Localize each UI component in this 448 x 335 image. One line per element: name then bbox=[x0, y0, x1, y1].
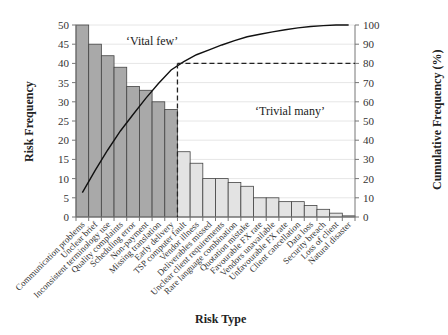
y2-tick-label: 90 bbox=[363, 38, 375, 50]
y2-tick-label: 50 bbox=[363, 115, 375, 127]
bar bbox=[114, 67, 127, 217]
y-tick-label: 40 bbox=[58, 57, 70, 69]
y2-tick-label: 70 bbox=[363, 77, 375, 89]
y2-tick-label: 30 bbox=[363, 153, 375, 165]
bar bbox=[317, 209, 330, 217]
bar bbox=[76, 25, 89, 217]
bar bbox=[228, 182, 241, 217]
y-tick-label: 20 bbox=[58, 134, 70, 146]
y-axis-left-title: Risk Frequency bbox=[22, 102, 42, 162]
bar bbox=[216, 179, 229, 217]
y2-tick-label: 80 bbox=[363, 57, 375, 69]
bar bbox=[241, 186, 254, 217]
y-tick-label: 0 bbox=[64, 211, 70, 223]
bar bbox=[152, 102, 165, 217]
y2-tick-label: 60 bbox=[363, 96, 375, 108]
y2-tick-label: 40 bbox=[363, 134, 375, 146]
bar bbox=[177, 152, 190, 217]
y2-tick-label: 10 bbox=[363, 192, 375, 204]
bar bbox=[203, 179, 216, 217]
y-tick-label: 15 bbox=[58, 153, 70, 165]
annotation-trivial-many: ‘Trivial many’ bbox=[255, 104, 325, 118]
bar bbox=[127, 86, 140, 217]
y-tick-label: 10 bbox=[58, 173, 70, 185]
bar bbox=[254, 198, 267, 217]
bar bbox=[330, 213, 343, 217]
bar bbox=[89, 44, 102, 217]
annotation-vital-few: ‘Vital few’ bbox=[126, 34, 178, 48]
bar bbox=[279, 202, 292, 217]
bar bbox=[165, 109, 178, 217]
bar bbox=[266, 198, 279, 217]
y-tick-label: 35 bbox=[58, 77, 70, 89]
y-tick-label: 25 bbox=[58, 115, 70, 127]
bar bbox=[304, 205, 317, 217]
pareto-chart: 0510152025303540455001020304050607080901… bbox=[0, 0, 448, 335]
bar bbox=[139, 90, 152, 217]
y-tick-label: 50 bbox=[58, 19, 70, 31]
y-axis-right-title: Cumulative Frequency (%) bbox=[430, 50, 448, 190]
bar bbox=[101, 56, 114, 217]
y2-tick-label: 20 bbox=[363, 173, 375, 185]
y-tick-label: 5 bbox=[64, 192, 70, 204]
y2-tick-label: 100 bbox=[363, 19, 380, 31]
x-axis-title: Risk Type bbox=[195, 312, 246, 327]
bar bbox=[292, 202, 305, 217]
y-tick-label: 45 bbox=[58, 38, 70, 50]
y2-tick-label: 0 bbox=[363, 211, 369, 223]
y-tick-label: 30 bbox=[58, 96, 70, 108]
bar bbox=[190, 163, 203, 217]
